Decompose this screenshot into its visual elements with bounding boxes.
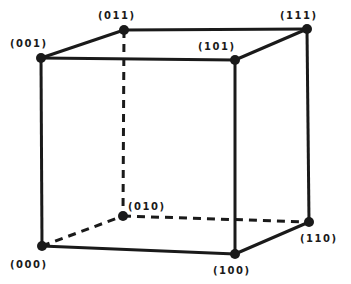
edge-000-001 [41, 58, 42, 246]
cube-diagram: (000)(001)(010)(011)(100)(101)(110)(111) [0, 0, 351, 284]
edge-001-101 [41, 58, 235, 60]
edge-000-100 [42, 246, 235, 254]
vertex-label-010: (010) [128, 201, 166, 212]
vertex-label-110: (110) [300, 233, 338, 244]
vertex-100 [230, 249, 240, 259]
vertex-101 [230, 55, 240, 65]
vertex-labels: (000)(001)(010)(011)(100)(101)(110)(111) [10, 10, 338, 276]
vertex-label-001: (001) [10, 38, 48, 49]
vertex-label-000: (000) [10, 259, 48, 270]
vertex-111 [302, 24, 312, 34]
vertex-label-111: (111) [280, 10, 318, 21]
edge-111-110 [307, 29, 309, 222]
vertex-011 [119, 25, 129, 35]
vertex-010 [118, 211, 128, 221]
edge-001-011 [41, 30, 124, 58]
vertex-label-101: (101) [198, 41, 236, 52]
edge-011-111 [124, 29, 307, 30]
vertex-label-011: (011) [98, 10, 136, 21]
edge-000-010 [42, 216, 123, 246]
vertex-001 [36, 53, 46, 63]
vertex-110 [304, 217, 314, 227]
edge-010-110 [123, 216, 309, 222]
cube-edges [41, 29, 309, 254]
vertex-label-100: (100) [213, 265, 251, 276]
edge-100-110 [235, 222, 309, 254]
edge-101-111 [235, 29, 307, 60]
vertex-000 [37, 241, 47, 251]
